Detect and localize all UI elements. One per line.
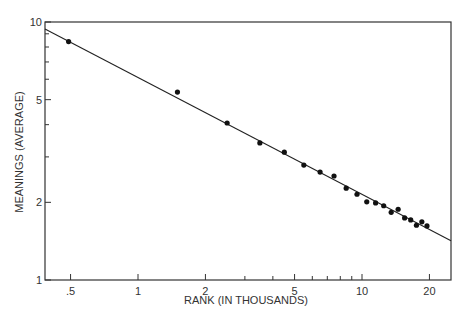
y-tick-label: 1 bbox=[36, 274, 42, 286]
data-points bbox=[66, 39, 430, 229]
data-point bbox=[317, 169, 322, 174]
x-tick-label: 1 bbox=[135, 285, 141, 297]
data-point bbox=[354, 192, 359, 197]
data-point bbox=[364, 199, 369, 204]
regression-line bbox=[45, 29, 451, 241]
chart: .51251020 12510 RANK (IN THOUSANDS) MEAN… bbox=[0, 0, 470, 321]
data-point bbox=[175, 89, 180, 94]
data-point bbox=[344, 186, 349, 191]
y-tick-label: 2 bbox=[36, 196, 42, 208]
data-point bbox=[424, 223, 429, 228]
data-point bbox=[414, 223, 419, 228]
data-point bbox=[408, 217, 413, 222]
y-axis-ticks: 12510 bbox=[30, 16, 51, 286]
x-tick-label: 20 bbox=[423, 285, 435, 297]
x-tick-label: .5 bbox=[66, 285, 75, 297]
y-tick-label: 5 bbox=[36, 94, 42, 106]
data-point bbox=[389, 210, 394, 215]
data-point bbox=[282, 150, 287, 155]
data-point bbox=[225, 120, 230, 125]
data-point bbox=[331, 173, 336, 178]
data-point bbox=[257, 140, 262, 145]
data-point bbox=[301, 162, 306, 167]
fit-line bbox=[45, 29, 451, 241]
x-tick-label: 10 bbox=[356, 285, 368, 297]
data-point bbox=[419, 219, 424, 224]
data-point bbox=[402, 215, 407, 220]
y-tick-label: 10 bbox=[30, 16, 42, 28]
y-axis-title: MEANINGS (AVERAGE) bbox=[13, 91, 25, 212]
data-point bbox=[381, 203, 386, 208]
data-point bbox=[66, 39, 71, 44]
x-axis-title: RANK (IN THOUSANDS) bbox=[184, 294, 308, 306]
data-point bbox=[373, 200, 378, 205]
data-point bbox=[396, 207, 401, 212]
